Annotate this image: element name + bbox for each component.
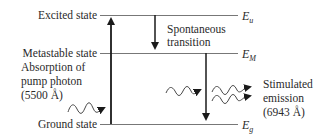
stimulated-label-line3: (6943 Å) bbox=[263, 105, 305, 119]
stimulated-label-line1: Stimulated bbox=[263, 78, 313, 90]
pump-photon-wave-icon bbox=[68, 103, 104, 114]
energy-level-diagram: Excited state Metastable state Ground st… bbox=[0, 0, 329, 137]
spontaneous-label-line2: transition bbox=[167, 36, 211, 48]
eu-symbol: Eu bbox=[241, 9, 253, 25]
spontaneous-label-line1: Spontaneous bbox=[167, 23, 226, 36]
excited-state-label: Excited state bbox=[38, 9, 97, 21]
absorption-label-line3: (5500 Å) bbox=[21, 88, 63, 102]
ground-state-label: Ground state bbox=[38, 118, 97, 130]
stimulated-label-line2: emission bbox=[263, 92, 304, 104]
metastable-state-label: Metastable state bbox=[23, 47, 97, 59]
emitted-photon-wave-icon-2 bbox=[212, 95, 250, 104]
incoming-photon-wave-icon bbox=[166, 87, 200, 96]
eg-symbol: Eg bbox=[241, 118, 253, 134]
absorption-label-line1: Absorption of bbox=[21, 61, 85, 74]
absorption-label-line2: pump photon bbox=[21, 75, 82, 88]
emitted-photon-wave-icon-1 bbox=[212, 86, 250, 95]
em-symbol: EM bbox=[241, 47, 257, 63]
